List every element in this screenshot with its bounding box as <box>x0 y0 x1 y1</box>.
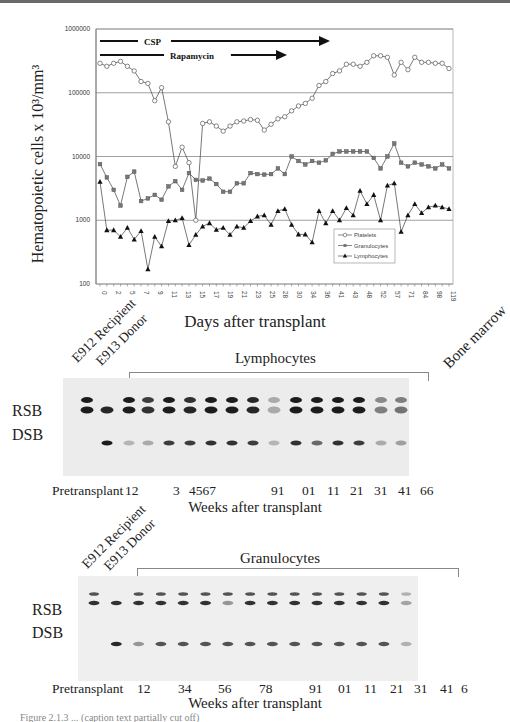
gel-x-axis-label: Weeks after transplant <box>0 499 510 516</box>
week-label: 66 <box>420 483 434 499</box>
week-label: 21 <box>350 483 364 499</box>
x-tick-label: 17 <box>213 291 220 299</box>
week-label: 11 <box>327 483 340 499</box>
treatment-arrow-csp: CSP <box>100 36 330 47</box>
x-tick-label: 28 <box>282 291 289 299</box>
x-tick-label: 7 <box>143 291 150 295</box>
week-label: 91 <box>271 483 285 499</box>
week-label: 3 <box>173 483 180 499</box>
x-tick-label: 11 <box>171 291 178 298</box>
gel-x-axis-label: Weeks after transplant <box>0 695 510 712</box>
x-tick-label: 34 <box>310 291 317 299</box>
group-label-granulocytes: Granulocytes <box>240 550 320 567</box>
svg-text:Granulocytes: Granulocytes <box>354 243 388 249</box>
x-tick-label: 13 <box>185 291 192 299</box>
svg-text:Lymphocytes: Lymphocytes <box>354 253 388 259</box>
x-tick-label: 9 <box>157 291 164 295</box>
y-tick-label: 100 <box>79 280 90 287</box>
x-tick-label: 23 <box>255 291 262 299</box>
x-tick-label: 15 <box>199 291 206 299</box>
x-tick-label: 21 <box>241 291 248 299</box>
x-tick-label: 57 <box>394 291 401 299</box>
week-label: 01 <box>302 483 316 499</box>
x-tick-label: 0 <box>101 291 108 295</box>
x-tick-label: 84 <box>422 291 429 299</box>
svg-text:Platelets: Platelets <box>354 232 376 238</box>
x-tick-label: 52 <box>380 291 387 299</box>
figure-caption-cut: Figure 2.1.3 ... (caption text partially… <box>0 712 510 722</box>
band-label-rsb: RSB <box>32 601 62 619</box>
x-tick-label: 19 <box>227 291 234 299</box>
x-tick-label: 2 <box>115 291 122 295</box>
x-tick-label: 5 <box>129 291 136 295</box>
x-tick-label: 71 <box>408 291 415 299</box>
y-tick-label: 1000 <box>76 216 91 223</box>
x-tick-label: 43 <box>352 291 359 299</box>
band-label-dsb: DSB <box>32 624 63 642</box>
y-tick-label: 1000000 <box>65 25 91 32</box>
x-tick-label: 119 <box>450 291 457 302</box>
x-tick-label: 25 <box>269 291 276 299</box>
granulocyte-gel-image <box>78 576 418 681</box>
chart-y-axis-label: Hematopoietic cells x 10³/mm³ <box>29 64 47 264</box>
blood-counts-chart: 1001000100001000001000000025791113151719… <box>0 0 510 310</box>
y-tick-label: 10000 <box>72 153 90 160</box>
x-tick-label: 36 <box>324 291 331 299</box>
y-tick-label: 100000 <box>68 89 90 96</box>
chart-legend: PlateletsGranulocytesLymphocytes <box>334 229 395 263</box>
treatment-arrow-rapamycin: Rapamycin <box>100 50 287 61</box>
x-tick-label: 30 <box>296 291 303 299</box>
band-label-dsb: DSB <box>12 426 43 444</box>
x-tick-label: 98 <box>436 291 443 299</box>
x-tick-label: 48 <box>366 291 373 299</box>
x-tick-label: 41 <box>338 291 345 299</box>
series-granulocytes <box>98 142 451 208</box>
lymphocyte-gel-image <box>63 378 409 476</box>
week-label: 31 <box>374 483 388 499</box>
series-lymphocytes <box>97 179 451 271</box>
band-label-rsb: RSB <box>12 402 42 420</box>
group-label-lymphocytes: Lymphocytes <box>235 350 316 367</box>
svg-text:CSP: CSP <box>144 37 162 47</box>
week-row-label: Pretransplant <box>52 483 123 499</box>
chart-x-axis-label: Days after transplant <box>0 312 510 332</box>
week-label: 4567 <box>189 483 216 499</box>
svg-text:Rapamycin: Rapamycin <box>170 51 214 61</box>
week-label: 12 <box>125 483 139 499</box>
week-label: 41 <box>398 483 412 499</box>
